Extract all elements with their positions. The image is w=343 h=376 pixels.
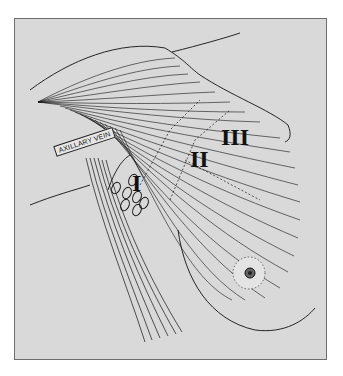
shoulder-outline — [30, 46, 165, 90]
level-2-label: II — [190, 146, 209, 173]
neck-outline — [172, 33, 240, 52]
arm-upper-outline — [30, 185, 90, 205]
axilla-outline — [108, 155, 130, 190]
anatomy-drawing — [0, 0, 343, 376]
nipple-areola — [233, 257, 265, 289]
level-3-label: III — [221, 124, 249, 151]
level-1-label: I — [132, 170, 141, 197]
